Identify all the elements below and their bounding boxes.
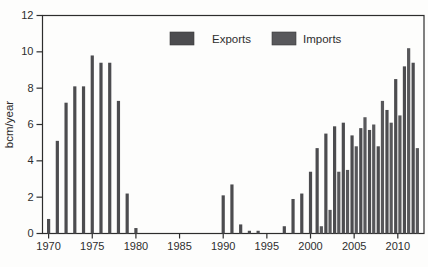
bar-imports-2009 bbox=[390, 123, 393, 234]
bar-exports-2006 bbox=[359, 128, 362, 233]
bar-exports-1978 bbox=[117, 101, 120, 234]
bar-exports-2009 bbox=[385, 110, 388, 234]
bar-exports-1993 bbox=[248, 231, 251, 234]
bar-exports-1997 bbox=[283, 226, 286, 233]
y-tick-label: 12 bbox=[21, 9, 33, 21]
y-tick-label: 6 bbox=[27, 118, 33, 130]
x-tick-label: 2005 bbox=[342, 240, 366, 252]
bar-exports-1998 bbox=[291, 199, 294, 234]
bar-imports-2003 bbox=[337, 172, 340, 234]
legend-label-imports: Imports bbox=[303, 33, 342, 45]
bar-imports-2002 bbox=[328, 210, 331, 234]
x-tick-label: 2000 bbox=[298, 240, 322, 252]
x-tick-label: 1995 bbox=[255, 240, 279, 252]
bar-imports-2005 bbox=[355, 146, 358, 233]
bar-exports-1999 bbox=[300, 194, 303, 234]
bar-exports-1994 bbox=[257, 231, 260, 234]
legend-swatch-imports bbox=[272, 32, 296, 45]
bar-exports-1974 bbox=[82, 86, 85, 233]
bar-exports-2005 bbox=[350, 135, 353, 233]
y-axis-title: bcm/year bbox=[3, 101, 15, 148]
y-tick-label: 8 bbox=[27, 82, 33, 94]
bar-imports-2010 bbox=[398, 115, 401, 233]
bar-exports-2008 bbox=[377, 146, 380, 233]
y-tick-label: 10 bbox=[21, 45, 33, 57]
bar-imports-2004 bbox=[346, 170, 349, 234]
bar-exports-1992 bbox=[239, 224, 242, 233]
y-tick-label: 4 bbox=[27, 154, 33, 166]
bar-imports-2012 bbox=[416, 148, 419, 233]
bar-exports-2003 bbox=[333, 126, 336, 233]
bar-exports-2000 bbox=[309, 172, 312, 234]
legend-label-exports: Exports bbox=[212, 33, 251, 45]
bar-exports-1990 bbox=[222, 195, 225, 233]
chart-figure: 0246810121970197519801985199019952000200… bbox=[0, 0, 428, 267]
x-tick-label: 2010 bbox=[386, 240, 410, 252]
bar-exports-2001 bbox=[316, 148, 319, 233]
x-tick-label: 1970 bbox=[36, 240, 60, 252]
x-tick-label: 1975 bbox=[80, 240, 104, 252]
bar-exports-1975 bbox=[91, 55, 94, 233]
bar-exports-2010 bbox=[394, 79, 397, 233]
x-tick-label: 1980 bbox=[124, 240, 148, 252]
bar-exports-1976 bbox=[99, 63, 102, 234]
bar-exports-1971 bbox=[56, 141, 59, 234]
bar-imports-2001 bbox=[320, 226, 323, 233]
bar-exports-1991 bbox=[230, 184, 233, 233]
bar-imports-2011 bbox=[407, 48, 410, 233]
chart-content: 0246810121970197519801985199019952000200… bbox=[21, 9, 419, 252]
y-tick-label: 0 bbox=[27, 227, 33, 239]
bar-exports-2012 bbox=[412, 63, 415, 234]
bar-exports-1980 bbox=[134, 228, 137, 233]
bar-exports-1979 bbox=[126, 194, 129, 234]
bar-imports-2007 bbox=[372, 125, 375, 234]
bar-exports-1972 bbox=[64, 103, 67, 234]
bar-imports-2008 bbox=[381, 101, 384, 234]
bar-exports-1977 bbox=[108, 63, 111, 234]
bar-exports-1973 bbox=[73, 86, 76, 233]
bar-exports-1970 bbox=[47, 219, 50, 234]
bar-imports-2006 bbox=[363, 117, 366, 233]
bar-exports-2004 bbox=[342, 123, 345, 234]
y-tick-label: 2 bbox=[27, 191, 33, 203]
x-tick-label: 1990 bbox=[211, 240, 235, 252]
bar-exports-2007 bbox=[368, 130, 371, 234]
legend-swatch-exports bbox=[170, 32, 194, 45]
bar-exports-2002 bbox=[324, 134, 327, 234]
x-tick-label: 1985 bbox=[167, 240, 191, 252]
bar-chart: 0246810121970197519801985199019952000200… bbox=[0, 0, 428, 267]
bar-exports-2011 bbox=[403, 66, 406, 233]
